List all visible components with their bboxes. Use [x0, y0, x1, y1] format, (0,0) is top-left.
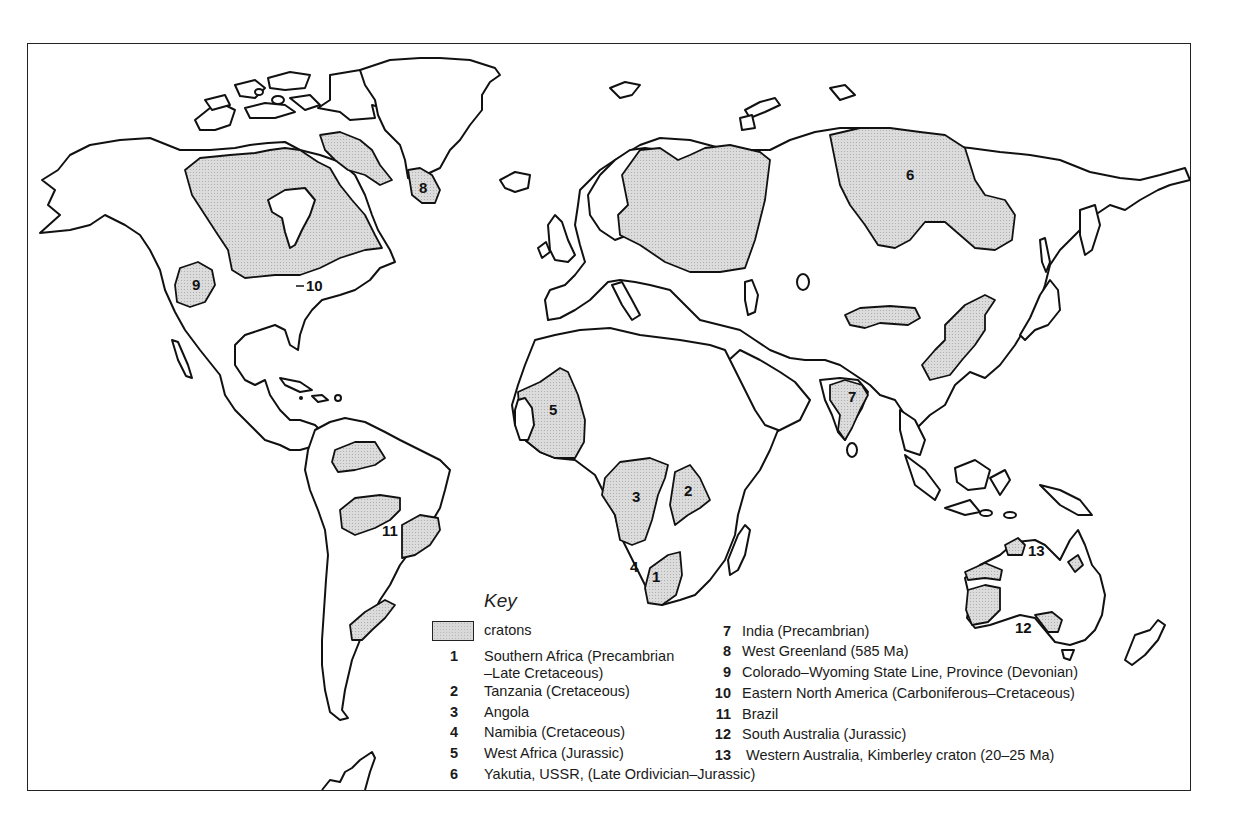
key-item-5: 5 West Africa (Jurassic)	[432, 745, 624, 762]
map-label-11: 11	[382, 522, 398, 539]
key-item-10: 10 Eastern North America (Carboniferous–…	[708, 685, 1075, 702]
map-label-8: 8	[419, 179, 427, 196]
key-item-12: 12 South Australia (Jurassic)	[708, 726, 906, 743]
map-label-1: 1	[652, 568, 660, 585]
key-item-7: 7 India (Precambrian)	[708, 623, 869, 640]
craton-brazil-east	[402, 515, 440, 558]
key-item-3: 3 Angola	[432, 704, 529, 721]
key-item-1: 1 Southern Africa (Precambrian–Late Cret…	[432, 648, 674, 682]
key-item-13: 13 Western Australia, Kimberley craton (…	[708, 747, 1054, 764]
key-item-9: 9 Colorado–Wyoming State Line, Province …	[708, 664, 1078, 681]
key-item-6: 6 Yakutia, USSR, (Late Ordivician–Jurass…	[432, 766, 755, 783]
map-label-2: 2	[684, 482, 692, 499]
key-item-2: 2 Tanzania (Cretaceous)	[432, 683, 630, 700]
map-label-3: 3	[632, 488, 640, 505]
craton-swatch-label: cratons	[484, 622, 532, 638]
key-item-8: 8 West Greenland (585 Ma)	[708, 643, 909, 660]
map-label-6: 6	[906, 166, 914, 183]
key-title: Key	[484, 590, 517, 612]
map-label-4: 4	[630, 558, 639, 575]
map-label-9: 9	[192, 276, 200, 293]
key-item-11: 11 Brazil	[708, 706, 778, 723]
map-label-7: 7	[848, 388, 856, 405]
map-key: Key cratons 1 Southern Africa (Precambri…	[432, 590, 1132, 790]
craton-swatch	[432, 621, 474, 641]
map-label-13: 13	[1028, 542, 1045, 559]
map-label-10: 10	[306, 277, 323, 294]
key-item-4: 4 Namibia (Cretaceous)	[432, 724, 625, 741]
map-label-5: 5	[549, 401, 557, 418]
